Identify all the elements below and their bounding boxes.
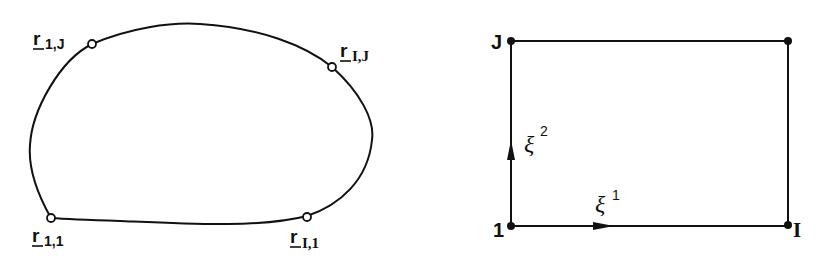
corner-label-I: I <box>793 218 801 242</box>
svg-text:r: r <box>290 226 298 247</box>
point-r-I-J <box>328 63 336 71</box>
xi1-label: ξ 1 <box>595 187 620 217</box>
svg-text:ξ: ξ <box>524 131 535 157</box>
svg-text:r: r <box>340 40 348 61</box>
label-r-I-1: r I,1 <box>290 226 319 251</box>
svg-text:I,J: I,J <box>352 48 370 64</box>
svg-text:r: r <box>32 225 40 246</box>
label-r-I-J: r I,J <box>340 40 370 64</box>
svg-text:1,1: 1,1 <box>44 233 64 249</box>
point-markers <box>47 40 336 222</box>
boundary-curve <box>30 24 373 225</box>
label-r-1-1: r 1,1 <box>32 225 64 249</box>
label-r-1-J: r 1,J <box>33 28 64 52</box>
diagram-canvas: r 1,J r I,J r 1,1 r I,1 J 1 I ξ 2 ξ 1 <box>0 0 826 268</box>
svg-text:1,J: 1,J <box>45 36 64 52</box>
corner-label-J: J <box>491 31 502 53</box>
xi2-arrow-icon <box>507 140 515 160</box>
svg-text:I,1: I,1 <box>302 235 319 251</box>
svg-text:ξ: ξ <box>595 191 606 217</box>
svg-text:r: r <box>33 28 41 49</box>
computational-rectangle <box>511 41 788 226</box>
xi1-arrow-icon <box>593 222 614 230</box>
corner-dots <box>507 37 792 230</box>
point-r-I-1 <box>303 213 311 221</box>
xi2-label: ξ 2 <box>524 123 548 157</box>
svg-text:2: 2 <box>540 123 548 139</box>
svg-text:1: 1 <box>612 187 620 203</box>
point-r-1-J <box>88 40 96 48</box>
point-r-1-1 <box>47 214 55 222</box>
corner-label-1: 1 <box>493 219 504 241</box>
